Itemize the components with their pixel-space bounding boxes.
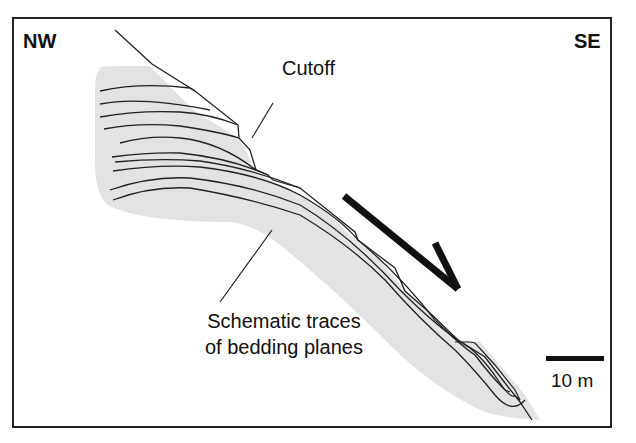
bedding-traces-label: Schematic traces of bedding planes [205, 308, 363, 360]
bedding-label-line-1: Schematic traces [205, 308, 363, 334]
cutoff-leader-line [252, 103, 273, 138]
bedding-label-line-2: of bedding planes [205, 334, 363, 360]
bedding-leader-line [220, 230, 272, 302]
direction-label-nw: NW [23, 30, 56, 53]
scale-bar [546, 356, 604, 361]
cutoff-label: Cutoff [282, 57, 335, 80]
scale-bar-label: 10 m [551, 370, 593, 392]
rock-mass-shading [95, 66, 540, 420]
direction-label-se: SE [574, 30, 601, 53]
